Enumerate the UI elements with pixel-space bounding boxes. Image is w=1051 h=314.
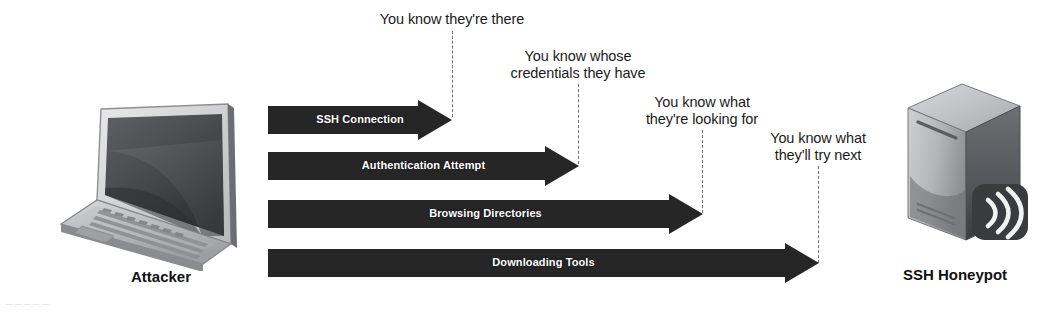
attacker-caption: Attacker (131, 268, 191, 285)
flow-arrow-3: Browsing Directories (268, 194, 703, 234)
flow-arrow-2: Authentication Attempt (268, 146, 579, 186)
page-artifact: — — — — — (6, 300, 49, 307)
annotation-label-1: You know they're there (380, 11, 524, 28)
dash-connector-1 (452, 31, 453, 117)
flow-arrow-1: SSH Connection (268, 100, 452, 140)
diagram-canvas: Attacker (0, 0, 1051, 314)
annotation-label-3: You know what they're looking for (646, 94, 758, 127)
annotation-label-4: You know what they'll try next (770, 130, 866, 163)
ssh-honeypot-node (900, 78, 1030, 258)
attacker-node (52, 96, 272, 271)
annotation-label-2: You know whose credentials they have (511, 48, 646, 81)
server-icon (900, 78, 1030, 258)
wifi-broadcast-icon (972, 184, 1028, 240)
laptop-icon (52, 96, 272, 271)
flow-arrow-4: Downloading Tools (268, 243, 819, 283)
ssh-honeypot-caption: SSH Honeypot (903, 266, 1007, 283)
